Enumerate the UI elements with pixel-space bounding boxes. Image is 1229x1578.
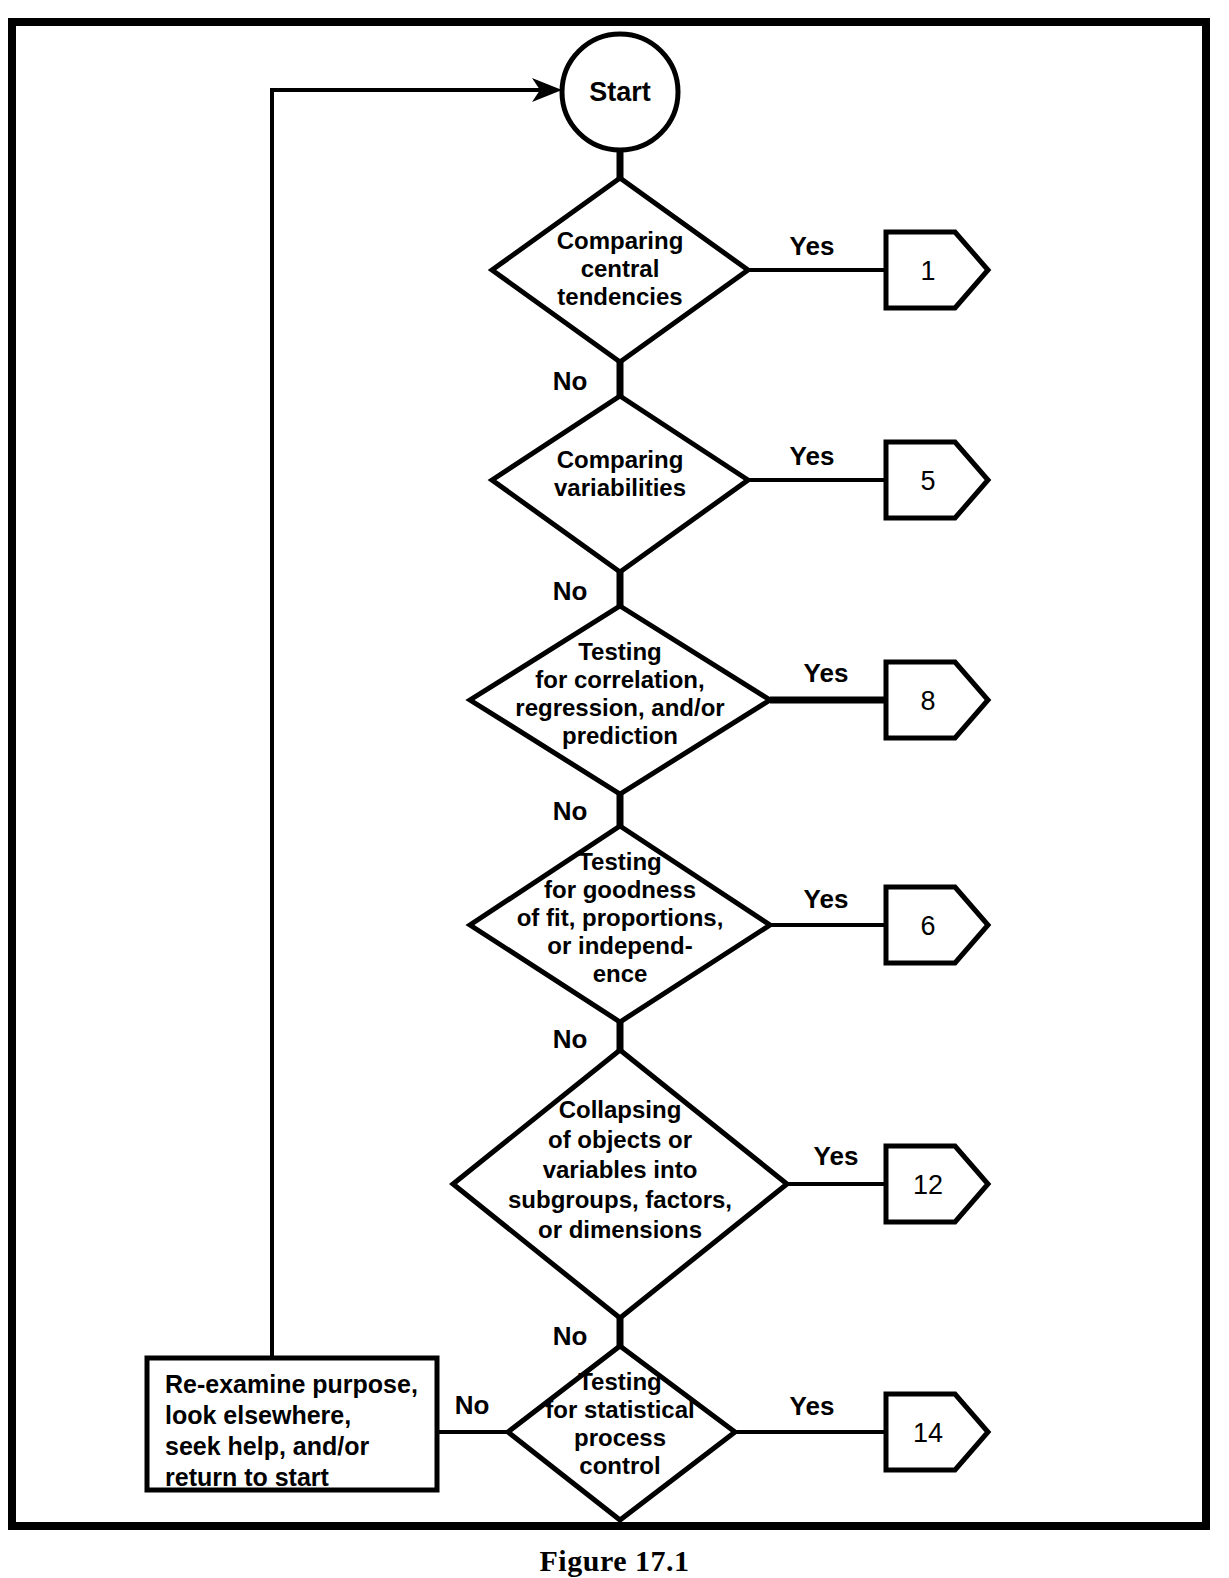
reference-number: 1 <box>920 256 935 286</box>
start-label: Start <box>589 77 651 107</box>
decision-text-line-2: central <box>581 255 660 282</box>
decision-text-line-3: variables into <box>543 1156 698 1183</box>
box-text-line-2: look elsewhere, <box>165 1401 351 1429</box>
decision-text-line-1: Collapsing <box>559 1096 682 1123</box>
edge-label-yes-2: Yes <box>790 441 835 471</box>
reference-pentagon <box>886 232 988 308</box>
decision-text-line-2: for correlation, <box>535 666 704 693</box>
box-text-line-4: return to start <box>165 1463 330 1491</box>
decision-text-line-1: Testing <box>578 1368 662 1395</box>
decision-text-line-1: Testing <box>578 638 662 665</box>
re-examine-box[interactable]: Re-examine purpose, look elsewhere, seek… <box>147 1358 437 1491</box>
box-text-line-3: seek help, and/or <box>165 1432 370 1460</box>
edge-label-yes-5: Yes <box>814 1141 859 1171</box>
decision-text-line-3: of fit, proportions, <box>517 904 724 931</box>
reference-pentagon <box>886 442 988 518</box>
decision-text-line-1: Comparing <box>557 446 684 473</box>
reference-number: 6 <box>920 911 935 941</box>
decision-text-line-3: regression, and/or <box>515 694 724 721</box>
start-node[interactable]: Start <box>562 34 678 150</box>
reference-pointer-6[interactable]: 14 <box>886 1394 988 1470</box>
decision-text-line-5: ence <box>593 960 648 987</box>
decision-correlation-regression[interactable]: Testing for correlation, regression, and… <box>470 606 770 794</box>
edge-label-no-6: No <box>455 1390 490 1420</box>
edge-label-yes-6: Yes <box>790 1391 835 1421</box>
decision-text-line-2: variabilities <box>554 474 686 501</box>
reference-pentagon <box>886 662 988 738</box>
decision-goodness-of-fit[interactable]: Testing for goodness of fit, proportions… <box>470 826 770 1022</box>
decision-text-line-4: subgroups, factors, <box>508 1186 732 1213</box>
decision-text-line-2: of objects or <box>548 1126 692 1153</box>
edge-label-no-4: No <box>553 1024 588 1054</box>
reference-pointer-1[interactable]: 1 <box>886 232 988 308</box>
decision-text-line-2: for statistical <box>545 1396 694 1423</box>
edge-label-yes-4: Yes <box>804 884 849 914</box>
reference-pointer-4[interactable]: 6 <box>886 887 988 963</box>
decision-text-line-3: process <box>574 1424 666 1451</box>
edge-label-no-2: No <box>553 576 588 606</box>
edge-label-no-5: No <box>553 1321 588 1351</box>
decision-text-line-1: Comparing <box>557 227 684 254</box>
reference-pointer-5[interactable]: 12 <box>886 1146 988 1222</box>
decision-statistical-process-control[interactable]: Testing for statistical process control <box>508 1346 735 1520</box>
decision-text-line-4: or independ- <box>547 932 692 959</box>
decision-central-tendencies[interactable]: Comparing central tendencies <box>492 178 748 362</box>
figure-caption: Figure 17.1 <box>0 1544 1229 1578</box>
reference-number: 14 <box>913 1418 943 1448</box>
reference-number: 5 <box>920 466 935 496</box>
decision-collapsing[interactable]: Collapsing of objects or variables into … <box>453 1050 787 1318</box>
decision-text-line-4: prediction <box>562 722 678 749</box>
edge-label-no-3: No <box>553 796 588 826</box>
reference-pointer-2[interactable]: 5 <box>886 442 988 518</box>
decision-text-line-3: tendencies <box>557 283 682 310</box>
decision-text-line-2: for goodness <box>544 876 696 903</box>
decision-text-line-5: or dimensions <box>538 1216 702 1243</box>
reference-pointer-3[interactable]: 8 <box>886 662 988 738</box>
edge-label-yes-1: Yes <box>790 231 835 261</box>
decision-text-line-1: Testing <box>578 848 662 875</box>
reference-number: 12 <box>913 1170 943 1200</box>
decision-diamond <box>453 1050 787 1318</box>
decision-text-line-4: control <box>579 1452 660 1479</box>
decision-variabilities[interactable]: Comparing variabilities <box>492 396 748 572</box>
edge-label-no-1: No <box>553 366 588 396</box>
edge-label-yes-3: Yes <box>804 658 849 688</box>
box-text-line-1: Re-examine purpose, <box>165 1370 418 1398</box>
reference-pentagon <box>886 887 988 963</box>
reference-number: 8 <box>920 686 935 716</box>
